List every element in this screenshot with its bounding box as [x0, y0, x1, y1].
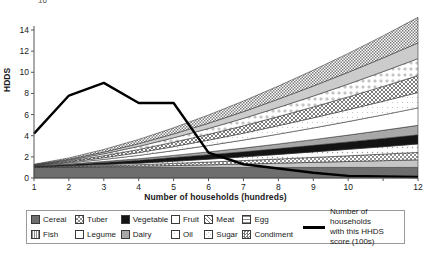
swatch-sugar-icon [204, 230, 213, 239]
y-tick-label: 2 [24, 152, 29, 162]
area-chart-svg: 024681012141234567891012 [0, 0, 431, 200]
x-tick-label: 1 [32, 182, 37, 192]
legend: Cereal Fish Tuber Legume Vegetable [26, 210, 405, 244]
y-tick-label: 6 [24, 110, 29, 120]
legend-item-legume: Legume [75, 229, 121, 241]
swatch-fruit-icon [171, 215, 180, 224]
legend-item-egg: Egg [242, 214, 293, 226]
legend-column-4: Fruit Oil [171, 214, 204, 241]
legend-label-vegetable: Vegetable [133, 215, 169, 224]
swatch-cereal-icon [31, 215, 40, 224]
legend-item-households-line: Number of households with this HHDS scor… [303, 207, 400, 247]
legend-label-cereal: Cereal [43, 215, 67, 224]
swatch-tuber-icon [75, 215, 84, 224]
legend-item-oil: Oil [171, 229, 204, 241]
swatch-dairy-icon [121, 230, 130, 239]
legend-label-dairy: Dairy [133, 230, 152, 239]
legend-label-meat: Meat [216, 215, 234, 224]
y-tick-label: 12 [20, 46, 30, 56]
y-tick-label: 14 [20, 25, 30, 35]
y-tick-label: 0 [24, 173, 29, 183]
x-tick-label: 10 [343, 182, 353, 192]
legend-column-5: Meat Sugar [204, 214, 242, 241]
swatch-meat-icon [204, 215, 213, 224]
legend-label-fruit: Fruit [183, 215, 199, 224]
x-tick-label: 4 [136, 182, 141, 192]
legend-label-fish: Fish [43, 230, 58, 239]
x-tick-label: 7 [241, 182, 246, 192]
legend-item-fish: Fish [31, 229, 75, 241]
legend-item-meat: Meat [204, 214, 242, 226]
swatch-egg-icon [242, 215, 251, 224]
y-tick-label: 8 [24, 88, 29, 98]
legend-item-vegetable: Vegetable [121, 214, 171, 226]
x-tick-label: 3 [101, 182, 106, 192]
plot-area: 024681012141234567891012 HDDS 16 [0, 0, 431, 200]
x-tick-label: 12 [413, 182, 423, 192]
legend-label-legume: Legume [87, 230, 116, 239]
legend-item-condiment: Condiment [242, 229, 293, 241]
legend-item-cereal: Cereal [31, 214, 75, 226]
y-axis-title: HDDS [2, 68, 12, 92]
x-tick-label: 8 [276, 182, 281, 192]
legend-label-households-line1: Number of households [330, 207, 400, 227]
swatch-vegetable-icon [121, 215, 130, 224]
legend-column-2: Tuber Legume [75, 214, 121, 241]
y-axis-clipped-tick: 16 [38, 0, 47, 5]
legend-label-tuber: Tuber [87, 215, 108, 224]
legend-column-1: Cereal Fish [31, 214, 75, 241]
y-tick-label: 10 [20, 67, 30, 77]
x-axis-title: Number of households (hundreds) [0, 192, 431, 202]
swatch-legume-icon [75, 230, 84, 239]
x-tick-label: 9 [311, 182, 316, 192]
y-tick-label: 4 [24, 131, 29, 141]
x-tick-label: 6 [206, 182, 211, 192]
legend-item-dairy: Dairy [121, 229, 171, 241]
x-tick-label: 5 [171, 182, 176, 192]
legend-label-oil: Oil [183, 230, 193, 239]
legend-item-tuber: Tuber [75, 214, 121, 226]
stacked-areas [34, 17, 418, 178]
legend-label-sugar: Sugar [216, 230, 237, 239]
swatch-condiment-icon [242, 230, 251, 239]
line-swatch-icon [303, 226, 325, 229]
legend-column-6: Egg Condiment [242, 214, 293, 241]
legend-label-condiment: Condiment [254, 230, 293, 239]
legend-label-egg: Egg [254, 215, 268, 224]
swatch-oil-icon [171, 230, 180, 239]
legend-label-households-line2: with this HHDS score (100s) [330, 227, 400, 247]
swatch-fish-icon [31, 230, 40, 239]
chart-figure: 024681012141234567891012 HDDS 16 Number … [0, 0, 431, 257]
x-tick-label: 2 [67, 182, 72, 192]
legend-item-sugar: Sugar [204, 229, 242, 241]
legend-item-fruit: Fruit [171, 214, 204, 226]
legend-column-3: Vegetable Dairy [121, 214, 171, 241]
